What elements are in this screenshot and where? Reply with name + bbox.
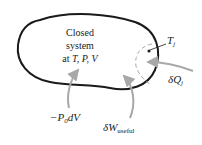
system-label-line2: system <box>50 39 110 52</box>
local-temperature-label: Tj <box>167 35 175 48</box>
thermo-system-diagram: Closed system at T, P, V Tj δQj −P0dV δW… <box>0 0 202 145</box>
system-label-line3: at T, P, V <box>50 52 110 65</box>
system-label-line1: Closed <box>50 26 110 39</box>
useful-work-arrow <box>124 76 133 118</box>
boundary-work-label: −P0dV <box>50 112 80 125</box>
system-label: Closed system at T, P, V <box>50 26 110 65</box>
useful-work-label: δWuseful <box>103 122 134 135</box>
heat-transfer-label: δQj <box>168 74 183 87</box>
boundary-work-arrow <box>68 70 78 108</box>
